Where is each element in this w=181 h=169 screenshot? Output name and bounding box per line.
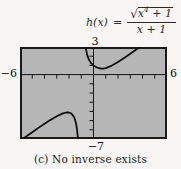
- fraction-denominator: x + 1: [137, 23, 166, 37]
- y-max-label: 3: [89, 36, 101, 47]
- formula-lhs: h(x): [86, 16, 108, 29]
- x-min-label: −6: [0, 68, 17, 79]
- x-max-label: 6: [170, 68, 181, 79]
- graph-window: [20, 47, 167, 139]
- fraction-numerator: √ x4 + 1: [127, 7, 176, 22]
- fraction: √ x4 + 1 x + 1: [127, 7, 176, 36]
- figure-caption: (c) No inverse exists: [0, 153, 181, 165]
- radical-sign-icon: √: [130, 8, 138, 20]
- function-formula: h(x) = √ x4 + 1 x + 1: [58, 4, 179, 40]
- radicand: x4 + 1: [138, 7, 173, 21]
- radicand-tail: + 1: [149, 7, 172, 20]
- equals-sign: =: [113, 16, 122, 29]
- y-min-label: −7: [85, 141, 107, 152]
- figure: h(x) = √ x4 + 1 x + 1 3 −6 6 −7 (c) No i…: [0, 0, 181, 169]
- graph-canvas: [20, 47, 167, 139]
